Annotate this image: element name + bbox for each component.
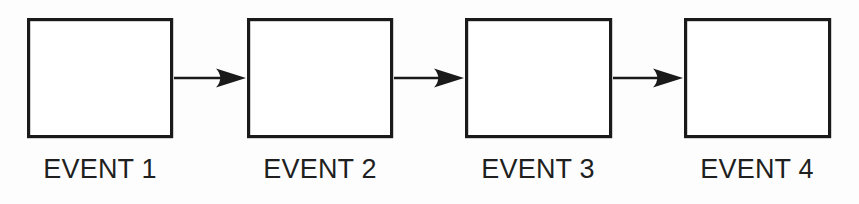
node-box-event-3[interactable]	[467, 20, 611, 137]
arrow-right-icon	[174, 69, 246, 88]
node-label-event-3: EVENT 3	[481, 154, 594, 184]
arrow-right-icon	[394, 69, 464, 88]
diagram-canvas: EVENT 1 EVENT 2 EVENT 3	[0, 0, 859, 204]
connector-arrowhead-2-3	[434, 69, 464, 88]
node-label-event-2: EVENT 2	[263, 154, 376, 184]
arrow-right-icon	[613, 69, 683, 88]
node-label-event-4: EVENT 4	[700, 154, 813, 184]
node-label-event-1: EVENT 1	[43, 154, 156, 184]
node-event-4[interactable]: EVENT 4	[686, 20, 830, 184]
node-box-event-1[interactable]	[29, 20, 172, 137]
node-event-1[interactable]: EVENT 1	[29, 20, 172, 184]
connector-arrowhead-3-4	[653, 69, 683, 88]
connector-arrowhead-1-2	[216, 69, 246, 88]
node-event-3[interactable]: EVENT 3	[467, 20, 611, 184]
event-chain-diagram: EVENT 1 EVENT 2 EVENT 3	[0, 0, 859, 204]
node-event-2[interactable]: EVENT 2	[249, 20, 392, 184]
node-box-event-2[interactable]	[249, 20, 392, 137]
node-box-event-4[interactable]	[686, 20, 830, 137]
